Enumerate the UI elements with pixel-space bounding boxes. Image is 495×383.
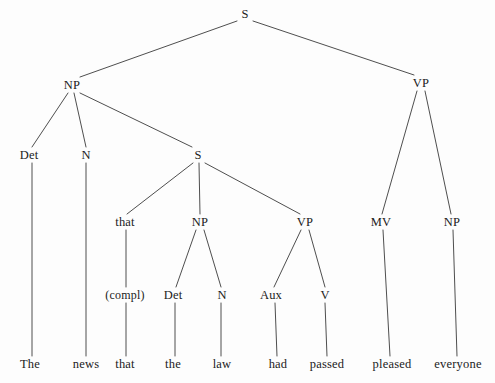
tree-edge-np-embedded-to-n-2 — [204, 230, 221, 287]
tree-node-s-root: S — [241, 8, 248, 21]
tree-node-vp-embedded: VP — [297, 216, 313, 229]
tree-edge-np-subject-to-n-1 — [74, 93, 86, 147]
tree-node-word-the-2: the — [165, 358, 181, 371]
tree-edge-v-to-word-passed — [325, 303, 327, 356]
tree-node-word-news: news — [73, 358, 100, 371]
tree-node-word-everyone: everyone — [434, 358, 481, 371]
tree-edge-np-embedded-to-det-2 — [176, 230, 196, 287]
tree-edge-np-subject-to-det-1 — [32, 93, 68, 147]
tree-node-v: V — [320, 289, 329, 302]
tree-node-word-that: that — [115, 358, 135, 371]
tree-edge-s-embedded-to-compl-that — [127, 163, 193, 214]
tree-node-word-the-1: The — [20, 358, 40, 371]
tree-edge-s-root-to-vp-main — [253, 21, 414, 75]
tree-node-det-1: Det — [20, 149, 39, 162]
tree-edge-vp-main-to-mv — [382, 91, 417, 214]
tree-edge-vp-embedded-to-v — [309, 230, 325, 287]
tree-edge-vp-embedded-to-aux — [274, 230, 301, 287]
tree-edge-vp-main-to-np-object — [425, 91, 451, 214]
tree-node-compl-gloss: (compl) — [105, 289, 144, 301]
tree-edge-layer — [0, 0, 495, 383]
tree-node-word-law: law — [213, 358, 232, 371]
tree-node-word-passed: passed — [310, 358, 345, 371]
tree-node-s-embedded: S — [194, 149, 201, 162]
tree-edge-np-object-to-word-everyone — [453, 230, 457, 356]
tree-node-det-2: Det — [164, 289, 183, 302]
tree-node-aux: Aux — [260, 289, 282, 302]
tree-node-n-1: N — [81, 149, 90, 162]
tree-node-word-had: had — [269, 358, 288, 371]
tree-node-compl-that: that — [115, 216, 135, 229]
tree-node-mv: MV — [371, 216, 392, 229]
tree-node-vp-main: VP — [413, 77, 429, 90]
tree-edge-mv-to-word-pleased — [383, 230, 390, 356]
tree-node-np-subject: NP — [64, 79, 80, 92]
tree-node-n-2: N — [217, 289, 226, 302]
tree-edge-aux-to-word-had — [275, 303, 277, 356]
syntax-tree-diagram: SNPVPDetNSthatNPVPMVNP(compl)DetNAuxVThe… — [0, 0, 495, 383]
tree-node-word-pleased: pleased — [373, 358, 412, 371]
tree-edge-np-subject-to-s-embedded — [80, 93, 192, 147]
tree-edge-s-embedded-to-np-embedded — [199, 163, 200, 214]
tree-node-np-embedded: NP — [192, 216, 208, 229]
tree-node-np-object: NP — [444, 216, 460, 229]
tree-edge-s-root-to-np-subject — [80, 21, 237, 77]
tree-edge-s-embedded-to-vp-embedded — [205, 163, 300, 214]
